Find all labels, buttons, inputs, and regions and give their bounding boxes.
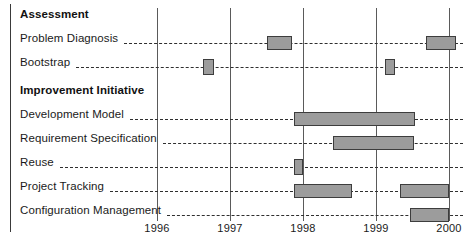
section-heading: Improvement Initiative — [20, 84, 144, 96]
x-tick-label: 1998 — [290, 222, 315, 234]
gantt-bar[interactable] — [410, 208, 449, 222]
task-label: Reuse — [20, 156, 54, 168]
gridline-1996 — [157, 8, 158, 221]
gantt-bar[interactable] — [385, 59, 394, 75]
gantt-bar[interactable] — [294, 112, 414, 126]
chart-plot-area: 19961997199819992000AssessmentProblem Di… — [0, 0, 471, 249]
task-label: Problem Diagnosis — [20, 32, 118, 44]
gantt-bar[interactable] — [294, 184, 352, 198]
gantt-bar[interactable] — [294, 159, 303, 175]
x-tick-label: 2000 — [436, 222, 461, 234]
task-label: Bootstrap — [20, 56, 70, 68]
x-tick-label: 1996 — [144, 222, 169, 234]
gantt-bar[interactable] — [400, 184, 449, 198]
gridline-1997 — [230, 8, 231, 221]
task-label: Requirement Specification — [20, 132, 157, 144]
task-label: Development Model — [20, 108, 124, 120]
gantt-chart: 19961997199819992000AssessmentProblem Di… — [0, 0, 471, 249]
gantt-bar[interactable] — [333, 136, 414, 150]
task-leader-line — [76, 67, 463, 68]
gantt-bar[interactable] — [203, 59, 214, 75]
task-leader-line — [124, 43, 463, 44]
gantt-bar[interactable] — [426, 36, 456, 50]
x-tick-label: 1997 — [217, 222, 242, 234]
task-label: Configuration Management — [20, 204, 161, 216]
task-leader-line — [163, 143, 463, 144]
task-leader-line — [60, 167, 463, 168]
x-tick-label: 1999 — [363, 222, 388, 234]
task-label: Project Tracking — [20, 180, 104, 192]
section-heading: Assessment — [20, 8, 89, 20]
gantt-bar[interactable] — [267, 36, 293, 50]
